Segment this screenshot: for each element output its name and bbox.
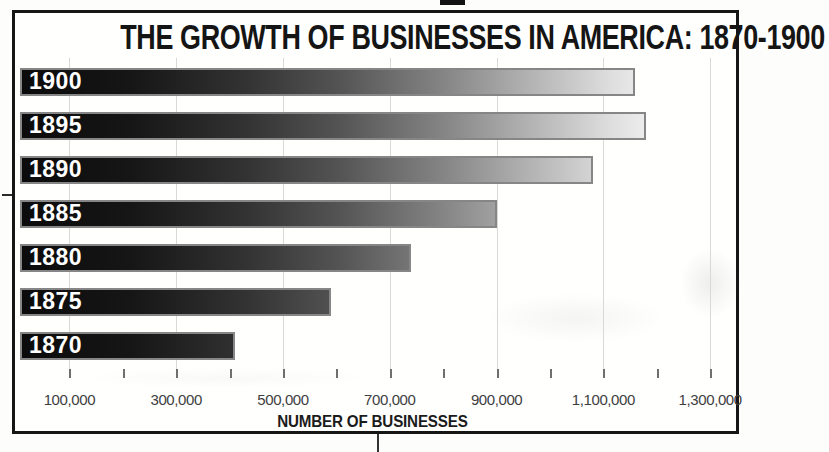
bar-year-label: 1895 [29,112,82,140]
bar-year-label: 1870 [29,332,82,360]
bar-year-label: 1885 [29,200,82,228]
bar-row-1895: 1895 [20,112,646,140]
x-axis-tick [550,369,552,378]
bar-year-label: 1900 [29,68,82,96]
x-axis-tick [497,369,499,378]
x-axis-tick-label: 900,000 [452,391,542,408]
bar-1890 [20,156,593,184]
x-axis-tick-label: 500,000 [238,391,328,408]
x-axis-tick [390,369,392,378]
bar-row-1890: 1890 [20,156,593,184]
gridline [603,58,604,376]
x-axis-tick [443,369,445,378]
x-axis-tick-label: 700,000 [345,391,435,408]
bar-row-1885: 1885 [20,200,497,228]
x-axis-tick [657,369,659,378]
bar-year-label: 1890 [29,156,82,184]
x-axis-title: NUMBER OF BUSINESSES [15,412,730,431]
x-axis-tick-label: 100,000 [24,391,114,408]
bar-row-1870: 1870 [20,332,235,360]
bar-year-label: 1875 [29,288,82,316]
x-axis-tick [283,369,285,378]
x-axis-tick [69,369,71,378]
x-axis-tick [336,369,338,378]
bar-1900 [20,68,635,96]
gridline [710,58,711,376]
plot-area: NUMBER OF BUSINESSES 100,000300,000500,0… [15,13,730,425]
x-axis-tick [176,369,178,378]
x-axis-title-text: NUMBER OF BUSINESSES [277,412,467,431]
bar-row-1900: 1900 [20,68,635,96]
x-axis-tick-label: 1,100,000 [558,391,648,408]
bar-row-1875: 1875 [20,288,331,316]
x-axis-tick [230,369,232,378]
scan-artifact-top-mark [440,0,465,5]
chart-frame: THE GROWTH OF BUSINESSES IN AMERICA: 187… [12,10,739,434]
bar-1885 [20,200,497,228]
x-axis-tick [123,369,125,378]
bar-1895 [20,112,646,140]
x-axis-tick-label: 300,000 [131,391,221,408]
bar-year-label: 1880 [29,244,82,272]
scan-artifact-bottom-line [377,434,379,452]
bar-row-1880: 1880 [20,244,411,272]
x-axis-tick [710,369,712,378]
x-axis-tick [603,369,605,378]
x-axis-tick-label: 1,300,000 [665,391,755,408]
